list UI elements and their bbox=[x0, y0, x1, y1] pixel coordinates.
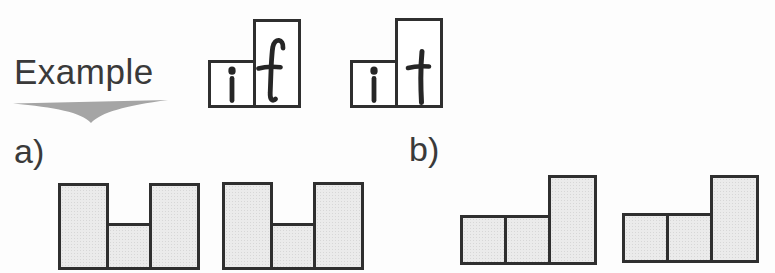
word-shape-puzzle-page: Example a) b) bbox=[0, 0, 775, 273]
option-b-shape-2 bbox=[622, 175, 759, 263]
option-a-label: a) bbox=[14, 131, 44, 171]
letter-box-f bbox=[253, 19, 301, 108]
option-a-shape-2 bbox=[222, 182, 364, 270]
option-a-shape-1 bbox=[58, 183, 200, 270]
letter-box-i bbox=[208, 60, 256, 108]
example-word-if bbox=[208, 19, 301, 108]
letter-glyph-i bbox=[353, 63, 395, 105]
letter-box-i bbox=[350, 60, 398, 108]
word-shape-box-short bbox=[622, 213, 669, 263]
word-shape-box-short bbox=[666, 213, 713, 263]
option-b-shape-1 bbox=[460, 175, 597, 265]
word-shape-box-short bbox=[106, 223, 152, 270]
word-shape-box-tall bbox=[710, 175, 759, 263]
letter-glyph-t bbox=[398, 21, 440, 105]
word-shape-box-short bbox=[460, 215, 507, 265]
word-shape-box-tall bbox=[58, 183, 109, 270]
letter-glyph-f bbox=[256, 22, 298, 105]
arrow-down-icon bbox=[13, 100, 168, 124]
word-shape-box-short bbox=[504, 215, 551, 265]
example-word-it bbox=[350, 18, 443, 108]
word-shape-box-tall bbox=[222, 182, 273, 270]
letter-box-t bbox=[395, 18, 443, 108]
word-shape-box-tall bbox=[149, 183, 200, 270]
option-b-label: b) bbox=[409, 129, 439, 169]
example-label: Example bbox=[14, 53, 154, 91]
word-shape-box-tall bbox=[548, 175, 597, 265]
word-shape-box-tall bbox=[313, 182, 364, 270]
word-shape-box-short bbox=[270, 223, 316, 270]
letter-glyph-i bbox=[211, 63, 253, 105]
